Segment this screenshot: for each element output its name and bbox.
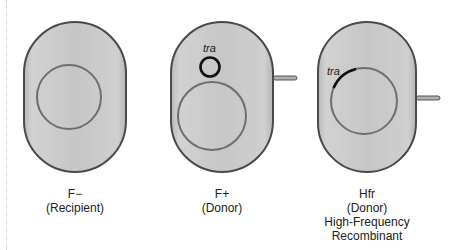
cell-role-label: (Donor) — [312, 201, 422, 215]
hfr-cell: tra — [318, 22, 440, 172]
cell-role-label: (Recipient) — [25, 201, 125, 215]
f-plus-caption: F+ (Donor) — [172, 187, 272, 215]
pilus-icon — [416, 96, 440, 100]
cell-type-label: F− — [25, 187, 125, 201]
f-minus-caption: F− (Recipient) — [25, 187, 125, 215]
cell-role-label: (Donor) — [172, 201, 272, 215]
hfr-expansion-line-2: Recombinant — [312, 229, 422, 243]
cell-type-label: Hfr — [312, 187, 422, 201]
f-plus-cell: tra — [171, 22, 297, 172]
hfr-caption: Hfr (Donor) High-Frequency Recombinant — [312, 187, 422, 243]
pilus-icon — [273, 76, 297, 80]
hfr-expansion-line-1: High-Frequency — [312, 215, 422, 229]
tra-label: tra — [327, 65, 340, 77]
cell-membrane — [318, 22, 416, 172]
tra-label: tra — [203, 42, 216, 54]
f-minus-cell — [24, 22, 126, 172]
cell-type-label: F+ — [172, 187, 272, 201]
cell-membrane — [24, 22, 126, 172]
